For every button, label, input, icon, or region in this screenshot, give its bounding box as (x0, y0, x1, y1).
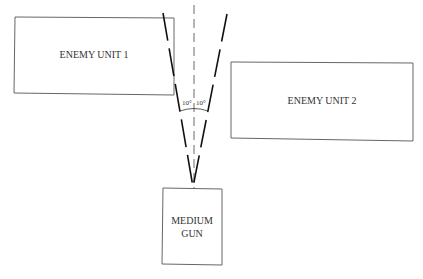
enemy-unit-2-label: ENEMY UNIT 2 (288, 95, 357, 106)
medium-gun-label-line2: GUN (181, 228, 203, 239)
firing-arc-diagram: ENEMY UNIT 1 ENEMY UNIT 2 MEDIUM GUN 10°… (0, 0, 423, 279)
enemy-unit-1-label: ENEMY UNIT 1 (60, 49, 129, 60)
left-angle-label: 10° (182, 99, 192, 107)
medium-gun-label-line1: MEDIUM (171, 215, 213, 226)
right-angle-label: 10° (196, 99, 206, 107)
medium-gun-box (162, 188, 222, 265)
